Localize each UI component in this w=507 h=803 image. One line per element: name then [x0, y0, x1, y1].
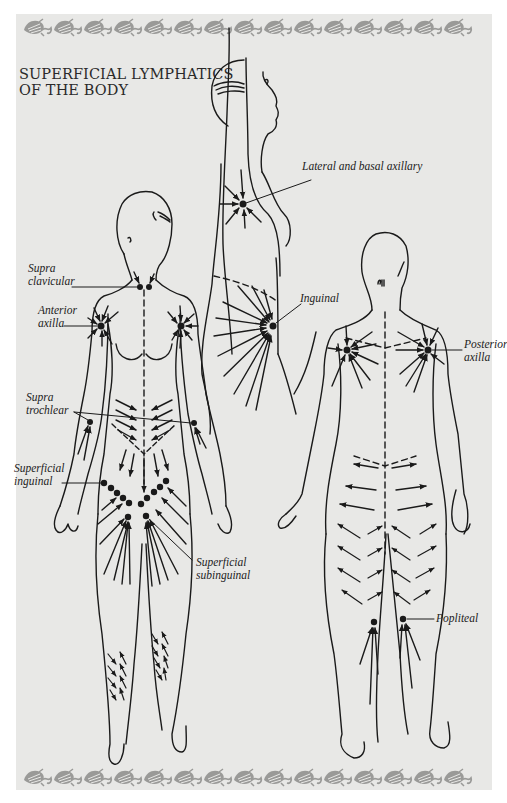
label-superficial-inguinal: Superficial inguinal	[14, 462, 64, 488]
decorative-border-bottom	[16, 766, 492, 788]
diagram-panel: SUPERFICIAL LYMPHATICS OF THE BODY	[16, 14, 492, 790]
back-view-figure	[278, 233, 470, 759]
label-supra-trochlear: Supra trochlear	[26, 391, 68, 417]
label-supra-clavicular: Supra clavicular	[28, 262, 75, 288]
label-anterior-axilla: Anterior axilla	[38, 304, 77, 330]
label-posterior-axilla: Posterior axilla	[464, 338, 507, 364]
label-lateral-basal-axillary: Lateral and basal axillary	[302, 160, 422, 173]
label-popliteal: Popliteal	[436, 612, 478, 625]
lymphatics-illustration	[16, 14, 492, 790]
side-view-figure	[202, 28, 316, 434]
front-view-figure	[54, 192, 231, 765]
label-superficial-subinguinal: Superficial subinguinal	[196, 556, 250, 582]
label-inguinal: Inguinal	[300, 292, 339, 305]
